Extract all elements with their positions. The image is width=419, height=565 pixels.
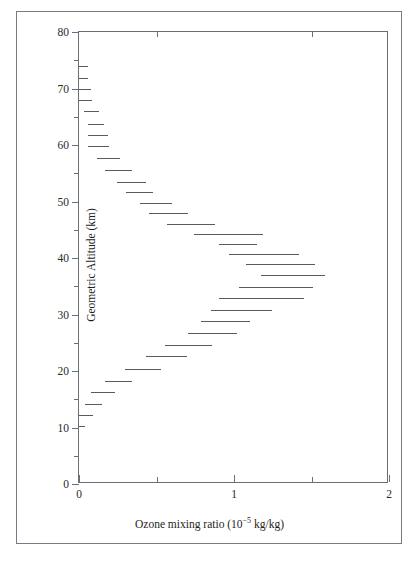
data-step-segment (149, 213, 188, 214)
y-axis-minor-tick (74, 60, 79, 61)
y-tick-label: 70 (58, 83, 70, 95)
x-tick-label: 0 (76, 488, 82, 500)
data-step-segment (79, 66, 88, 67)
y-axis-minor-tick (74, 343, 79, 344)
x-axis-tick (79, 475, 80, 482)
y-axis-minor-tick (74, 230, 79, 231)
data-step-segment (167, 224, 215, 225)
data-step-segment (117, 182, 146, 183)
x-axis-tick (234, 475, 235, 482)
y-tick-label: 20 (58, 365, 70, 377)
y-axis-tick (72, 371, 79, 372)
data-step-segment (239, 287, 313, 288)
y-axis-tick (72, 258, 79, 259)
y-tick-label: 30 (58, 309, 70, 321)
data-step-segment (140, 203, 172, 204)
data-step-segment (246, 264, 314, 265)
y-axis-minor-tick (74, 399, 79, 400)
y-axis-tick (72, 428, 79, 429)
data-step-segment (79, 78, 88, 79)
data-step-segment (125, 369, 161, 370)
plot-axes-box: 01020304050607080 012 Geometric Altitude… (78, 31, 388, 483)
x-axis-minor-tick-top (312, 32, 313, 37)
data-step-segment (165, 345, 212, 346)
y-tick-label: 80 (58, 26, 70, 38)
y-axis-minor-tick (74, 456, 79, 457)
x-tick-label: 2 (386, 488, 392, 500)
data-step-segment (201, 321, 250, 322)
x-tick-label: 1 (231, 488, 237, 500)
data-step-segment (211, 310, 272, 311)
data-step-segment (194, 234, 262, 235)
x-axis-minor-tick-top (157, 32, 158, 37)
figure-root: 01020304050607080 012 Geometric Altitude… (0, 0, 419, 565)
y-axis-tick (72, 89, 79, 90)
x-axis-title-exponent: −5 (243, 516, 252, 525)
data-step-segment (105, 381, 131, 382)
data-step-segment (188, 333, 237, 334)
y-axis-tick (72, 202, 79, 203)
y-axis-minor-tick (74, 173, 79, 174)
y-axis-tick (72, 145, 79, 146)
data-step-segment (97, 158, 120, 159)
y-axis-tick (72, 315, 79, 316)
y-axis-tick (72, 484, 79, 485)
x-axis-minor-tick (312, 477, 313, 482)
x-axis-title: Ozone mixing ratio (10−5 kg/kg) (0, 516, 419, 530)
data-step-segment (219, 244, 258, 245)
y-tick-label: 50 (58, 196, 70, 208)
data-step-segment (146, 356, 187, 357)
y-axis-minor-tick (74, 117, 79, 118)
x-axis-minor-tick (157, 477, 158, 482)
y-axis-title: Geometric Altitude (km) (85, 95, 97, 435)
data-step-segment (219, 298, 303, 299)
y-axis-tick (72, 32, 79, 33)
x-axis-title-base: Ozone mixing ratio (10 (135, 518, 243, 530)
y-axis-minor-tick (74, 286, 79, 287)
data-step-segment (229, 254, 300, 255)
y-tick-label: 0 (63, 478, 69, 490)
data-step-segment (261, 275, 325, 276)
y-tick-label: 40 (58, 252, 70, 264)
data-step-segment (105, 170, 132, 171)
y-tick-label: 60 (58, 139, 70, 151)
x-axis-tick (389, 475, 390, 482)
x-axis-title-tail: kg/kg) (251, 518, 284, 530)
data-step-segment (126, 192, 153, 193)
data-step-segment (79, 89, 91, 90)
y-tick-label: 10 (58, 422, 70, 434)
